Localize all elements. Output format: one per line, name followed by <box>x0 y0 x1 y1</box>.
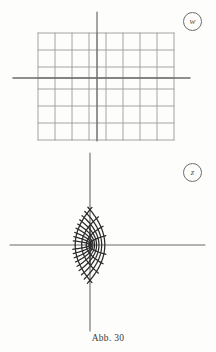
figure-abb-30: w z Abb. 30 <box>0 0 216 352</box>
z-plane-axes <box>10 153 205 331</box>
figure-caption: Abb. 30 <box>0 333 216 343</box>
w-plane-grid <box>38 33 174 140</box>
z-plane-label: z <box>183 163 202 182</box>
w-plane-axes <box>13 12 190 141</box>
w-plane-label: w <box>183 12 202 31</box>
